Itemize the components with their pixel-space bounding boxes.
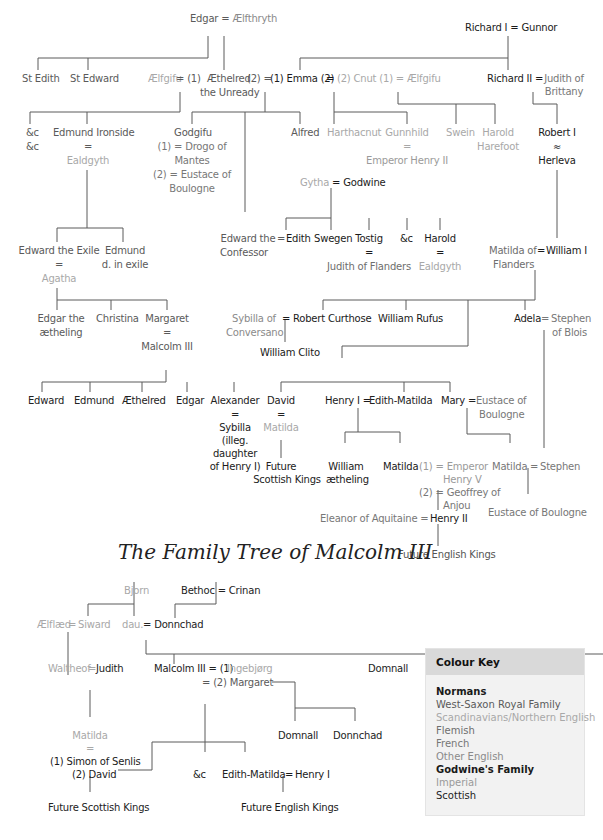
- aelflaed: Ælflæd: [37, 618, 71, 631]
- key-item-normans: Normans: [436, 685, 584, 698]
- edgar-the-aetheling-2: ætheling: [36, 326, 86, 339]
- godgifu-marriage-1b: Mantes: [152, 154, 232, 167]
- stephen: Stephen: [540, 460, 580, 473]
- confessor-marriage: =: [277, 232, 285, 245]
- colour-key: Colour Key Normans West-Saxon Royal Fami…: [425, 648, 585, 816]
- richard-gunnor-couple: Richard I = Gunnor: [465, 21, 557, 34]
- ealdgyth-1: Ealdgyth: [53, 154, 123, 167]
- edmund-ironside: Edmund Ironside: [53, 126, 134, 139]
- david-marriage: =: [266, 408, 296, 421]
- child-edgar: Edgar: [176, 394, 204, 407]
- mary: Mary =: [441, 394, 476, 407]
- godgifu-marriage-2: (2) = Eustace of: [152, 168, 232, 181]
- tostig: Tostig: [350, 232, 388, 245]
- etc-2: &c: [26, 140, 39, 153]
- adela-marriage: =: [541, 312, 549, 325]
- robert-i: Robert I: [532, 126, 582, 139]
- eustace-of-boulogne: Eustace of: [476, 394, 526, 407]
- emma: (1) Emma (2): [270, 72, 334, 85]
- future-scottish: Future: [262, 460, 300, 473]
- agatha: Agatha: [16, 272, 102, 285]
- donnchad-lower: Donnchad: [333, 729, 382, 742]
- william-clito: William Clito: [260, 346, 320, 359]
- sybilla-2: (illeg.: [210, 434, 260, 447]
- sybilla-3: daughter: [210, 447, 260, 460]
- stephen-of-blois: Stephen: [551, 312, 591, 325]
- siward: Siward: [78, 618, 111, 631]
- ealdgyth-2: Ealdgyth: [415, 260, 465, 273]
- domnall-top: Domnall: [368, 662, 408, 675]
- swein: Swein: [446, 126, 475, 139]
- alexander-marriage: =: [210, 408, 260, 421]
- waltheof: Waltheof: [48, 662, 91, 675]
- waltheof-marriage: =: [88, 662, 96, 675]
- matilda-marriage-1: (1) = Emperor: [419, 460, 488, 473]
- william-rufus: William Rufus: [378, 312, 443, 325]
- adela: Adela: [514, 312, 541, 325]
- edith-matilda: Edith-Matilda: [369, 394, 432, 407]
- ironside-marriage: =: [53, 140, 123, 153]
- cnut-aelfgifu: (2) Cnut (1) = Ælfgifu: [337, 72, 441, 85]
- eustace-son: Eustace of Boulogne: [488, 506, 587, 519]
- key-item-scandinavians: Scandinavians/Northern English: [436, 711, 584, 724]
- future-english-kings-lower: Future English Kings: [241, 801, 339, 814]
- aethelred-second-marriage: (2) =: [247, 72, 272, 85]
- matilda-david-wife: Matilda: [262, 421, 300, 434]
- judith-of-flanders: Judith of Flanders: [320, 260, 418, 273]
- edith-matilda-lower: Edith-Matilda: [222, 768, 285, 781]
- herleva: Herleva: [532, 154, 582, 167]
- malcolm-iii: Malcolm III: [140, 340, 194, 353]
- henry-i: Henry I =: [325, 394, 371, 407]
- edmund-exile-note: d. in exile: [100, 258, 150, 271]
- eleanor-of-aquitaine: Eleanor of Aquitaine =: [320, 512, 429, 525]
- william-aetheling: William: [326, 460, 366, 473]
- matilda-marriage-2b: Anjou: [443, 499, 470, 512]
- exile-marriage: =: [16, 258, 102, 271]
- robert-curthose: Robert Curthose: [293, 312, 372, 325]
- siward-marriage: =: [68, 618, 76, 631]
- sybilla-of-conversano: Sybilla of: [226, 312, 282, 325]
- edgar-the-aetheling: Edgar the: [36, 312, 86, 325]
- daughter: dau.: [122, 618, 143, 631]
- david-lower: (2) David: [72, 768, 116, 781]
- child-edmund: Edmund: [74, 394, 114, 407]
- gytha-godwine-couple: Gytha = Godwine: [300, 176, 385, 189]
- henry-ii: Henry II: [430, 512, 468, 525]
- child-edward: Edward: [28, 394, 64, 407]
- domnall-lower: Domnall: [278, 729, 318, 742]
- godgifu: Godgifu: [160, 126, 226, 139]
- matilda-wife-of-stephen: Matilda: [492, 460, 527, 473]
- godgifu-marriage-2b: Boulogne: [152, 182, 232, 195]
- matilda-empress: Matilda: [383, 460, 418, 473]
- key-item-other-english: Other English: [436, 750, 584, 763]
- bjorn: Bjorn: [124, 584, 149, 597]
- edith: Edith: [286, 232, 311, 245]
- st-edward: St Edward: [70, 72, 119, 85]
- william-i: William I: [546, 244, 587, 257]
- margaret-marriage: =: [140, 326, 194, 339]
- judith: Judith: [96, 662, 123, 675]
- sybilla-of-conversano-2: Conversano: [226, 326, 282, 339]
- judith-of-brittany: Judith of Brittany: [536, 72, 592, 98]
- gunnhild: Gunnhild: [370, 126, 444, 139]
- robert-herleva-union: ≈: [532, 140, 582, 153]
- tostig-marriage: =: [350, 246, 388, 259]
- matilda-of-flanders: Matilda of: [489, 244, 537, 257]
- william-marriage: =: [537, 244, 545, 257]
- harold-harefoot-epithet: Harefoot: [474, 140, 522, 153]
- william-aetheling-2: ætheling: [326, 473, 366, 486]
- ingebjorg: Ingebjørg: [227, 662, 273, 675]
- swegen: Swegen: [314, 232, 352, 245]
- gunnhild-marriage: =: [370, 140, 444, 153]
- emma-cnut-marriage: =: [326, 72, 334, 85]
- sybilla-4: of Henry I): [206, 460, 264, 473]
- matilda-marriage-2: (2) = Geoffrey of: [419, 486, 500, 499]
- key-item-imperial: Imperial: [436, 776, 584, 789]
- matilda-lower: Matilda: [62, 729, 118, 742]
- eustace-of-boulogne-2: Boulogne: [479, 408, 524, 421]
- key-item-godwine: Godwine's Family: [436, 763, 584, 776]
- edmund-exile: Edmund: [100, 244, 150, 257]
- edgar-aelfthryth-couple: Edgar = Ælfthryth: [190, 12, 277, 25]
- harold: Harold: [420, 232, 460, 245]
- aethelred: Æthelred: [207, 72, 251, 85]
